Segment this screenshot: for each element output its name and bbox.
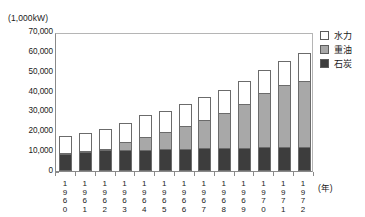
x-axis-tick-mark [75,172,76,176]
bar-segment-oil [218,113,231,148]
legend-swatch-coal-icon [320,59,329,68]
bar-segment-oil [179,126,192,149]
stacked-bar-chart: (1,000kW) 70,00060,00050,00040,00030,000… [0,0,365,217]
x-axis-label-digit: 3 [115,206,133,215]
x-axis-tick-mark [115,172,116,176]
x-axis-tick-mark [95,172,96,176]
x-axis-label-digit: 1 [274,206,292,215]
y-axis-tick-label: 40,000 [29,87,53,96]
x-axis-label-digit: 8 [215,206,233,215]
x-axis-tick-label: 1966 [175,180,193,214]
legend-label: 水力 [334,29,353,42]
bar-segment-coal [59,154,72,171]
x-axis-label-digit: 2 [96,206,114,215]
bar-segment-coal [99,150,112,171]
bar-segment-coal [119,150,132,171]
bar-column [79,133,92,171]
bar-segment-oil [238,104,251,148]
bar-segment-hydro [198,97,211,120]
x-axis-tick-label: 1967 [195,180,213,214]
legend-item-hydro: 水力 [320,30,353,40]
x-axis-label-digit: 6 [175,206,193,215]
x-axis-tick-mark [154,172,155,176]
x-axis-label-digit: 9 [235,206,253,215]
bar-column [119,123,132,171]
bar-segment-hydro [278,61,291,85]
x-axis-tick-label: 1969 [235,180,253,214]
bar-segment-oil [298,81,311,147]
bar-segment-hydro [59,136,72,153]
legend-item-oil: 重油 [320,44,353,54]
bar-segment-hydro [99,129,112,149]
y-axis-tick-label: 60,000 [29,47,53,56]
bar-segment-coal [298,147,311,171]
x-axis-tick-label: 1968 [215,180,233,214]
x-axis-label-digit: 1 [76,206,94,215]
x-axis-tick-label: 1963 [115,180,133,214]
x-axis-tick-label: 1961 [76,180,94,214]
legend-label: 重油 [334,43,353,56]
y-axis-unit-label: (1,000kW) [8,13,48,23]
x-axis-tick-mark [313,172,314,176]
bar-column [258,70,271,171]
x-axis-tick-mark [253,172,254,176]
bar-segment-coal [179,149,192,171]
bar-segment-hydro [139,115,152,137]
x-axis-tick-label: 1970 [254,180,272,214]
x-axis-tick-label: 1960 [56,180,74,214]
x-axis-tick-mark [174,172,175,176]
bar-segment-hydro [179,104,192,126]
bar-column [99,129,112,171]
bar-segment-hydro [238,81,251,104]
x-axis-tick-label: 1971 [274,180,292,214]
bar-segment-hydro [159,111,172,132]
bar-column [238,81,251,171]
bar-column [59,136,72,171]
x-axis-tick-mark [273,172,274,176]
x-axis-tick-label: 1972 [294,180,312,214]
y-axis-tick-label: 20,000 [29,126,53,135]
bar-segment-oil [139,137,152,149]
x-axis-label-digit: 7 [195,206,213,215]
bar-segment-coal [139,150,152,171]
x-axis-label-digit: 4 [135,206,153,215]
bar-segment-hydro [79,133,92,151]
x-axis-tick-mark [293,172,294,176]
bar-segment-coal [218,148,231,171]
x-axis-label-digit: 0 [254,206,272,215]
x-axis-tick-label: 1962 [96,180,114,214]
bar-segment-coal [258,147,271,171]
legend-label: 石炭 [334,57,353,70]
bar-column [218,90,231,171]
bar-column [139,115,152,171]
plot-area [55,33,313,172]
bar-column [198,97,211,171]
y-axis-tick-label: 30,000 [29,106,53,115]
x-axis-label-digit: 2 [294,206,312,215]
legend-item-coal: 石炭 [320,58,353,68]
bar-column [298,53,311,171]
bar-segment-oil [198,120,211,149]
bar-column [278,61,291,171]
legend-swatch-oil-icon [320,45,329,54]
y-axis-tick-label: 0 [49,166,53,175]
x-axis-tick-mark [194,172,195,176]
bar-segment-coal [198,148,211,171]
x-axis-tick-mark [134,172,135,176]
bar-segment-coal [159,149,172,171]
bar-segment-hydro [218,90,231,113]
x-axis-tick-label: 1965 [155,180,173,214]
bar-segment-hydro [298,53,311,81]
x-axis-tick-mark [234,172,235,176]
bar-segment-hydro [258,70,271,93]
x-axis-tick-mark [214,172,215,176]
legend: 水力重油石炭 [320,30,353,68]
bar-segment-coal [238,148,251,171]
bar-segment-oil [258,93,271,148]
x-axis-label-digit: 5 [155,206,173,215]
x-axis-tick-label: 1964 [135,180,153,214]
bar-segment-oil [159,132,172,149]
bar-segment-hydro [119,123,132,143]
x-axis-unit-label: (年) [318,181,333,193]
y-axis-tick-label: 70,000 [29,27,53,36]
